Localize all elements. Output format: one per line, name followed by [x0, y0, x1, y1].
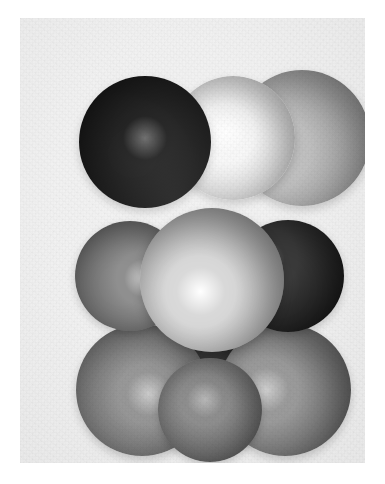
- figure-root: [0, 0, 385, 484]
- sphere-center-bright: [140, 208, 284, 352]
- sphere-top-left-black: [79, 76, 211, 208]
- sphere-bottom-center-front-gray: [158, 358, 262, 462]
- photograph-panel: [20, 18, 365, 463]
